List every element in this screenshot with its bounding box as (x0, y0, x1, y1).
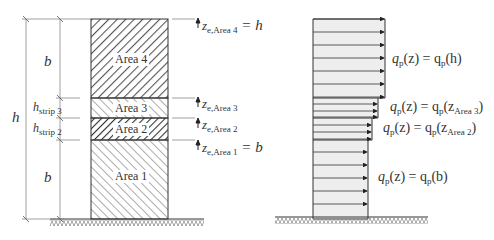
z-area-4-label: ze,Area 4 = h (202, 18, 263, 35)
dim-h-strip-3: hstrip 3 (33, 101, 62, 116)
qp-h-label: qp(z) = qp(h) (392, 52, 462, 68)
dim-h-strip-2: hstrip 2 (33, 122, 62, 137)
z-area-1-label: ze,Area 1 = b (202, 140, 263, 157)
area-3-label: Area 3 (113, 102, 149, 115)
left-building (91, 19, 168, 219)
qp-area3-label: qp(z) = qp(zArea 3) (390, 100, 483, 116)
qp-area2-label: qp(z) = qp(zArea 2) (383, 121, 476, 137)
z-area-2-label: ze,Area 2 (202, 118, 238, 134)
dim-bottom-b: b (44, 170, 52, 185)
dim-h: h (12, 110, 20, 125)
dim-top-b: b (44, 54, 52, 69)
right-ground (275, 217, 428, 224)
z-area-3-label: ze,Area 3 (202, 97, 238, 113)
qp-b-label: qp(z) = qp(b) (378, 170, 448, 186)
left-ground (50, 219, 204, 226)
area-4-label: Area 4 (113, 53, 149, 66)
area-1-label: Area 1 (113, 170, 149, 183)
z-arrows (196, 18, 200, 150)
area-2-label: Area 2 (113, 123, 149, 136)
pressure-profile (313, 19, 385, 219)
